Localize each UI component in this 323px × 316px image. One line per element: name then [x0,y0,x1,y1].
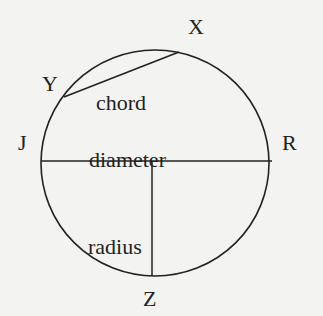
point-label-r: R [282,130,297,155]
circle-diagram: X Y J R Z chord diameter radius [0,0,323,316]
point-label-j: J [18,130,27,155]
diameter-label: diameter [89,147,167,172]
chord-label: chord [96,90,146,115]
point-label-x: X [188,14,204,39]
radius-label: radius [88,234,142,259]
point-label-z: Z [143,286,156,311]
point-label-y: Y [42,71,58,96]
